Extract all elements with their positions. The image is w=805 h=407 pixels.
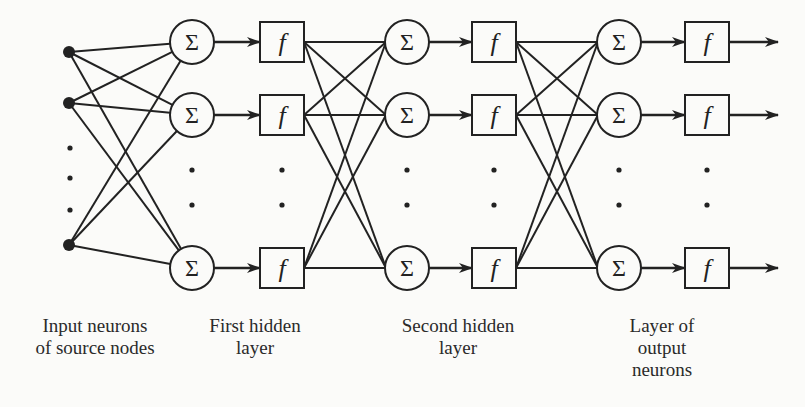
summation-node-hidden2-2: Σ [385,93,429,137]
activation-node-output-3: f [685,248,729,288]
label-hidden1-line2: layer [190,337,320,359]
label-output-line3: neurons [597,359,727,381]
label-output-line1: Layer of [597,315,727,337]
summation-node-output-2: Σ [597,93,641,137]
svg-text:Σ: Σ [185,102,199,128]
label-hidden2-line1: Second hidden [383,315,533,337]
summation-node-hidden2-3: Σ [385,246,429,290]
ellipsis-dot [616,202,621,207]
activation-node-hidden2-1: f [472,22,516,62]
svg-text:Σ: Σ [612,29,626,55]
svg-text:Σ: Σ [185,255,199,281]
svg-text:Σ: Σ [612,255,626,281]
activation-node-hidden1-1: f [260,22,304,62]
ellipsis-dot [404,202,409,207]
input-node-3 [63,239,75,251]
ellipsis-dot [704,202,709,207]
activation-node-output-1: f [685,22,729,62]
ellipsis-dot [67,145,72,150]
ellipsis-dot [491,167,496,172]
activation-node-hidden1-3: f [260,248,304,288]
label-hidden1-line1: First hidden [190,315,320,337]
svg-text:Σ: Σ [612,102,626,128]
ellipsis-dot [279,167,284,172]
connections [69,42,778,268]
ellipsis-dot [189,167,194,172]
svg-text:Σ: Σ [185,29,199,55]
label-input-layer: Input neurons of source nodes [20,315,170,359]
ellipsis-dot [704,167,709,172]
summation-node-hidden2-1: Σ [385,20,429,64]
activation-node-hidden2-2: f [472,95,516,135]
nodes: ΣfΣfΣfΣfΣfΣfΣfΣfΣf [63,20,729,290]
label-hidden2-line2: layer [383,337,533,359]
activation-node-hidden2-3: f [472,248,516,288]
activation-node-output-2: f [685,95,729,135]
label-output-layer: Layer of output neurons [597,315,727,381]
label-second-hidden-layer: Second hidden layer [383,315,533,359]
summation-node-output-3: Σ [597,246,641,290]
ellipsis-dot [616,167,621,172]
svg-text:Σ: Σ [400,255,414,281]
activation-node-hidden1-2: f [260,95,304,135]
summation-node-output-1: Σ [597,20,641,64]
label-first-hidden-layer: First hidden layer [190,315,320,359]
svg-text:Σ: Σ [400,102,414,128]
ellipsis-dot [189,202,194,207]
summation-node-hidden1-2: Σ [170,93,214,137]
ellipsis-dot [491,202,496,207]
input-node-2 [63,97,75,109]
input-node-1 [63,46,75,58]
ellipsis-dot [279,202,284,207]
summation-node-hidden1-3: Σ [170,246,214,290]
label-input-line2: of source nodes [20,337,170,359]
ellipsis-dot [67,175,72,180]
ellipsis-dot [404,167,409,172]
svg-text:Σ: Σ [400,29,414,55]
label-output-line2: output [597,337,727,359]
ellipsis-dot [67,207,72,212]
label-input-line1: Input neurons [20,315,170,337]
summation-node-hidden1-1: Σ [170,20,214,64]
